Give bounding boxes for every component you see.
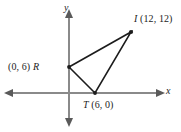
y-axis-label: y bbox=[64, 3, 68, 13]
vertex-marker-t bbox=[93, 91, 97, 95]
x-axis-right-arrowhead bbox=[156, 89, 165, 97]
vertex-label-r: (0, 6) R bbox=[8, 62, 39, 72]
y-axis-down-arrowhead bbox=[65, 118, 73, 127]
vertex-coords-t: (6, 0) bbox=[91, 99, 113, 110]
vertex-marker-r bbox=[67, 65, 71, 69]
x-axis-label: x bbox=[166, 86, 170, 96]
triangle-rit bbox=[69, 32, 131, 93]
vertex-marker-i bbox=[129, 30, 133, 34]
coordinate-plane-figure: I (12, 12) (0, 6) R T (6, 0) y x bbox=[0, 0, 181, 132]
vertex-coords-i: (12, 12) bbox=[140, 13, 172, 24]
vertex-letter-r: R bbox=[33, 61, 39, 72]
vertex-label-t: T (6, 0) bbox=[83, 100, 114, 110]
x-axis-left-arrowhead bbox=[4, 89, 13, 97]
vertex-coords-r: (0, 6) bbox=[8, 61, 30, 72]
vertex-label-i: I (12, 12) bbox=[134, 14, 173, 24]
